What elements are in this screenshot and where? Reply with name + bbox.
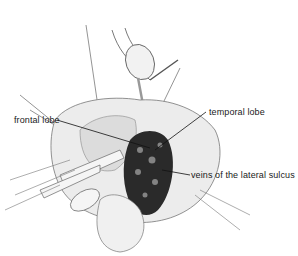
label-veins-lateral-sulcus: veins of the lateral sulcus <box>191 171 295 180</box>
retractor-top <box>112 28 178 110</box>
label-frontal-lobe: frontal lobe <box>14 116 60 125</box>
surgical-illustration <box>0 0 298 256</box>
label-temporal-lobe: temporal lobe <box>209 108 265 117</box>
